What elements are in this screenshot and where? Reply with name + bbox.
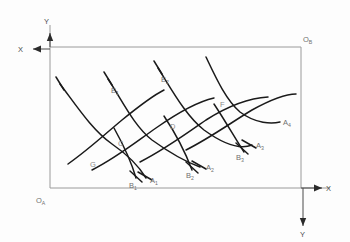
canvas-background: [0, 0, 350, 242]
label-g: G: [90, 160, 96, 169]
axis-x-lower-label: X: [326, 184, 331, 193]
label-c: C: [118, 139, 124, 148]
label-f: F: [220, 100, 225, 109]
label-d: D: [170, 122, 176, 131]
axis-x-upper-label: X: [18, 45, 23, 54]
axis-y-lower-label: Y: [300, 230, 305, 239]
diagram-canvas: OA OB X Y X Y A1 A2 A3 A4 B1 B2 B3: [0, 0, 350, 242]
axis-y-upper-label: Y: [44, 17, 49, 26]
technical-diagram: OA OB X Y X Y A1 A2 A3 A4 B1 B2 B3: [0, 0, 350, 242]
